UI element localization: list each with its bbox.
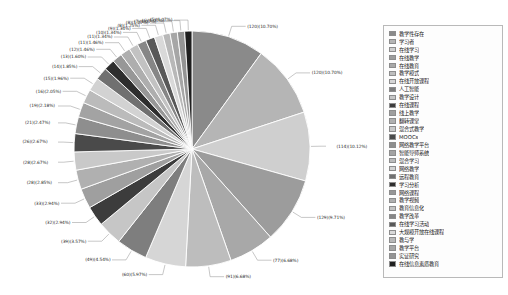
legend-swatch-icon bbox=[389, 182, 396, 187]
pie-slice-label: (28)(2.67%) bbox=[23, 160, 48, 165]
legend-item[interactable]: 人工智能 bbox=[389, 86, 499, 94]
legend-swatch-icon bbox=[389, 134, 396, 139]
legend-swatch-icon bbox=[389, 103, 396, 108]
legend-swatch-icon bbox=[389, 190, 396, 195]
legend-swatch-icon bbox=[389, 174, 396, 179]
legend-item[interactable]: 教学改革 bbox=[389, 213, 499, 221]
pie-slice-label: (120)(10.70%) bbox=[312, 70, 343, 75]
legend-swatch-icon bbox=[389, 237, 396, 242]
legend-item[interactable]: 教育信息化 bbox=[389, 205, 499, 213]
legend-swatch-icon bbox=[389, 95, 396, 100]
legend-swatch-icon bbox=[389, 31, 396, 36]
legend-item-label: 在线课程 bbox=[399, 102, 419, 108]
legend-swatch-icon bbox=[389, 79, 396, 84]
label-leader-line bbox=[132, 28, 150, 37]
label-leader-line bbox=[79, 67, 101, 73]
legend-item-label: 教学改革 bbox=[399, 213, 419, 219]
pie-svg bbox=[58, 18, 326, 280]
legend-swatch-icon bbox=[389, 118, 396, 123]
legend-swatch-icon bbox=[389, 166, 396, 171]
label-leader-line bbox=[70, 78, 92, 83]
legend-item-label: 网络教学 bbox=[399, 166, 419, 172]
legend-item[interactable]: 在线教学 bbox=[389, 54, 499, 62]
label-leader-line bbox=[114, 37, 133, 46]
legend-swatch-icon bbox=[389, 55, 396, 60]
legend-swatch-icon bbox=[389, 214, 396, 219]
legend-swatch-icon bbox=[389, 47, 396, 52]
legend-swatch-icon bbox=[389, 222, 396, 227]
legend-item[interactable]: 教学平台 bbox=[389, 244, 499, 252]
legend-swatch-icon bbox=[389, 150, 396, 155]
legend-item[interactable]: 在线信息素质教育 bbox=[389, 260, 499, 268]
legend-item-label: 在线学习 bbox=[399, 47, 419, 53]
legend-item-label: 在线教育 bbox=[399, 63, 419, 69]
label-leader-line bbox=[229, 26, 246, 36]
legend-swatch-icon bbox=[389, 198, 396, 203]
label-leader-line bbox=[209, 267, 224, 277]
legend-item-label: 混合式教学 bbox=[399, 126, 424, 132]
legend-item-label: 学习分析 bbox=[399, 182, 419, 188]
label-leader-line bbox=[58, 180, 77, 183]
legend-item[interactable]: 远程教育 bbox=[389, 173, 499, 181]
pie-slice-label: (26)(2.67%) bbox=[22, 139, 47, 144]
label-leader-line bbox=[112, 251, 131, 260]
legend-swatch-icon bbox=[389, 253, 396, 258]
legend-item-label: 教学设计 bbox=[399, 94, 419, 100]
legend-item[interactable]: 在线学习活动 bbox=[389, 221, 499, 229]
pie-slice-label: (77)(6.68%) bbox=[273, 258, 298, 263]
legend-item[interactable]: 学习分析 bbox=[389, 181, 499, 189]
legend-item-label: 在线信息素质教育 bbox=[399, 261, 439, 267]
legend-item-label: 教学模式 bbox=[399, 70, 419, 76]
label-leader-line bbox=[293, 212, 316, 217]
legend-item[interactable]: 翻转课堂 bbox=[389, 117, 499, 125]
legend-item[interactable]: 教学设计 bbox=[389, 94, 499, 102]
label-leader-line bbox=[63, 91, 86, 95]
legend-item[interactable]: 学习者 bbox=[389, 38, 499, 46]
label-leader-line bbox=[88, 57, 109, 64]
pie-slice-label: (19)(2.18%) bbox=[30, 103, 55, 108]
pie-slice-label: (13)(1.60%) bbox=[61, 54, 86, 59]
legend-swatch-icon bbox=[389, 142, 396, 147]
legend-item-label: 在线学习活动 bbox=[399, 221, 429, 227]
pie-slice-label: (120)(10.70%) bbox=[247, 24, 278, 29]
legend-swatch-icon bbox=[389, 87, 396, 92]
legend-item[interactable]: 混合学习 bbox=[389, 157, 499, 165]
legend-item[interactable]: 教与学 bbox=[389, 236, 499, 244]
legend-swatch-icon bbox=[389, 245, 396, 250]
label-leader-line bbox=[61, 199, 84, 203]
legend-item[interactable]: 大规模开放在线课程 bbox=[389, 228, 499, 236]
legend-item[interactable]: 智能导师系统 bbox=[389, 149, 499, 157]
legend-item-label: MOOCs bbox=[399, 134, 418, 140]
legend-item[interactable]: 教学视频 bbox=[389, 197, 499, 205]
legend-item-label: 教育信息化 bbox=[399, 205, 424, 211]
label-leader-line bbox=[252, 252, 271, 261]
legend-item[interactable]: 网络教学 bbox=[389, 165, 499, 173]
legend-item-label: 在线教学 bbox=[399, 55, 419, 61]
legend-item[interactable]: 在线教育 bbox=[389, 62, 499, 70]
label-leader-line bbox=[58, 161, 74, 162]
legend-item-label: 人工智能 bbox=[399, 86, 419, 92]
legend-item-label: 教学性存在 bbox=[399, 31, 424, 37]
legend-swatch-icon bbox=[389, 158, 396, 163]
legend-item[interactable]: 混合式教学 bbox=[389, 125, 499, 133]
pie-slice-label: (16)(2.05%) bbox=[36, 89, 61, 94]
legend-item[interactable]: 在线课程 bbox=[389, 101, 499, 109]
legend-item[interactable]: 网络课程 bbox=[389, 189, 499, 197]
label-leader-line bbox=[58, 106, 80, 109]
legend-item[interactable]: 在线开放课程 bbox=[389, 78, 499, 86]
legend-item-label: 线上教学 bbox=[399, 110, 419, 116]
legend-item[interactable]: 教学模式 bbox=[389, 70, 499, 78]
legend-item[interactable]: MOOCs bbox=[389, 133, 499, 141]
chart-legend: 教学性存在学习者在线学习在线教学在线教育教学模式在线开放课程人工智能教学设计在线… bbox=[383, 25, 503, 278]
label-leader-line bbox=[105, 43, 125, 51]
legend-item[interactable]: 网络教学平台 bbox=[389, 141, 499, 149]
label-leader-line bbox=[288, 73, 310, 79]
legend-item[interactable]: 在线学习 bbox=[389, 46, 499, 54]
legend-item[interactable]: 线上教学 bbox=[389, 109, 499, 117]
legend-item[interactable]: 教学性存在 bbox=[389, 30, 499, 38]
label-leader-line bbox=[96, 49, 116, 57]
legend-item[interactable]: 实证研究 bbox=[389, 252, 499, 260]
legend-item-label: 实证研究 bbox=[399, 253, 419, 259]
pie-slice-label: (129)(9.71%) bbox=[317, 215, 345, 220]
label-leader-line bbox=[142, 25, 159, 35]
